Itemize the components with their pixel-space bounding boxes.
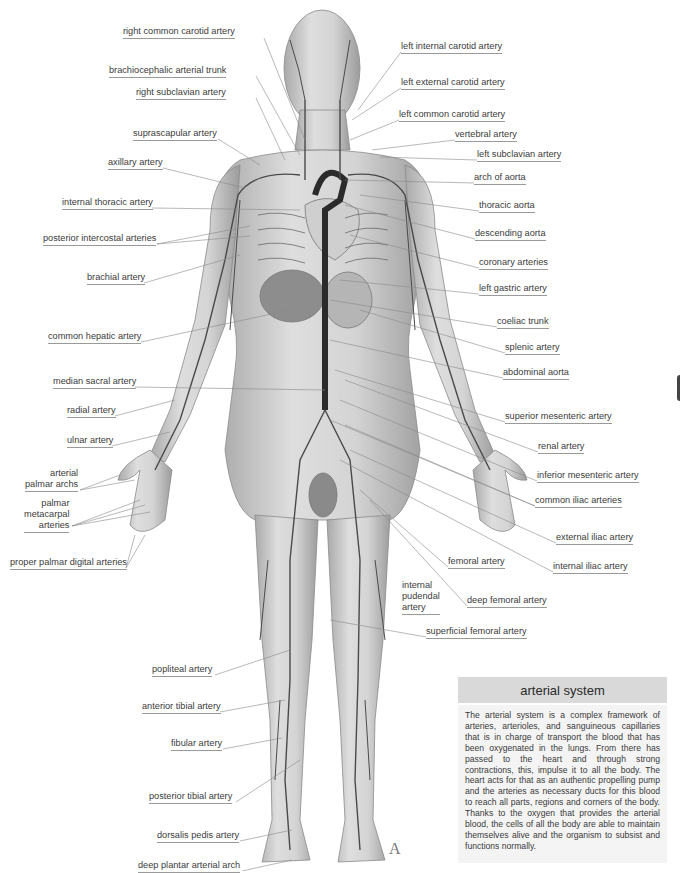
label-left-internal-carotid-artery: left internal carotid artery [401,41,502,54]
label-arch-of-aorta: arch of aorta [474,172,526,185]
label-internal-pudendal-artery: internalpudendalartery [402,580,440,615]
label-descending-aorta: descending aorta [475,228,546,241]
label-splenic-artery: splenic artery [505,342,560,355]
label-median-sacral-artery: median sacral artery [53,376,136,389]
info-box-description: The arterial system is a complex framewo… [458,705,667,863]
left-hand [473,450,527,531]
label-internal-iliac-artery: internal iliac artery [553,561,628,574]
label-dorsalis-pedis-artery: dorsalis pedis artery [157,830,239,843]
label-axillary-artery: axillary artery [108,157,163,170]
label-vertebral-artery: vertebral artery [455,129,517,142]
label-palmar-metacarpal-arteries: palmarmetacarpalarteries [24,498,69,533]
label-right-subclavian-artery: right subclavian artery [136,87,226,100]
genitals [309,473,337,517]
label-left-external-carotid-artery: left external carotid artery [401,77,505,90]
label-posterior-intercostal-arteries: posterior intercostal arteries [43,233,156,246]
label-abdominal-aorta: abdominal aorta [503,367,569,380]
label-common-hepatic-artery: common hepatic artery [48,331,141,344]
label-inferior-mesenteric-artery: inferior mesenteric artery [537,470,639,483]
label-common-iliac-arteries: common iliac arteries [535,495,622,508]
label-left-subclavian-artery: left subclavian artery [477,149,561,162]
label-renal-artery: renal artery [538,441,584,454]
label-radial-artery: radial artery [67,405,116,418]
label-external-iliac-artery: external iliac artery [556,532,633,545]
right-hand [118,450,172,531]
label-deep-femoral-artery: deep femoral artery [467,595,547,608]
label-fibular-artery: fibular artery [171,738,222,751]
label-posterior-tibial-artery: posterior tibial artery [149,791,232,804]
label-proper-palmar-digital-arteries: proper palmar digital arteries [10,557,127,570]
label-brachial-artery: brachial artery [87,272,145,285]
label-brachiocephalic-arterial-trunk: brachiocephalic arterial trunk [109,65,226,78]
label-superficial-femoral-artery: superficial femoral artery [426,626,527,639]
label-coronary-arteries: coronary arteries [479,257,548,270]
right-arm [150,165,240,462]
label-internal-thoracic-artery: internal thoracic artery [62,197,153,210]
plate-letter: A [389,840,401,858]
left-leg [327,515,390,862]
label-superior-mesenteric-artery: superior mesenteric artery [505,411,612,424]
label-femoral-artery: femoral artery [448,556,505,569]
neck [295,110,350,150]
label-left-common-carotid-artery: left common carotid artery [399,109,505,122]
label-deep-plantar-arterial-arch: deep plantar arterial arch [138,860,240,873]
label-right-common-carotid-artery: right common carotid artery [123,26,235,39]
label-left-gastric-artery: left gastric artery [479,283,547,296]
info-box-title: arterial system [458,677,667,703]
label-anterior-tibial-artery: anterior tibial artery [142,701,221,714]
head [284,10,360,126]
label-ulnar-artery: ulnar artery [67,435,113,448]
label-popliteal-artery: popliteal artery [152,664,212,677]
label-thoracic-aorta: thoracic aorta [479,200,535,213]
label-suprascapular-artery: suprascapular artery [133,128,217,141]
label-coeliac-trunk: coeliac trunk [497,316,549,329]
label-arterial-palmar-archs: arterialpalmar archs [25,468,78,492]
